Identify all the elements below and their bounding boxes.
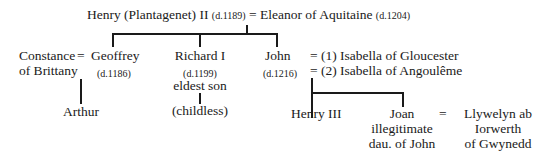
john-death: (d.1216): [263, 66, 297, 81]
llywelyn-realm: of Gwynedd: [455, 136, 541, 151]
richard-drop-line: [199, 33, 201, 47]
john-drop-line: [276, 33, 278, 47]
constance-marriage-sign: =: [77, 48, 85, 63]
joan-drop-line: [402, 92, 404, 107]
joan-status: illegitimate: [362, 121, 442, 136]
joan-parentage: dau. of John: [362, 136, 442, 151]
arthur-name: Arthur: [63, 104, 99, 119]
joan-name: Joan: [362, 106, 442, 121]
llywelyn-name: Llywelyn ab: [455, 106, 541, 121]
geoffrey-drop-line: [112, 33, 114, 47]
geoffrey-name: Geoffrey: [91, 48, 139, 63]
children-bar-line: [112, 33, 278, 35]
henry-ii-name: Henry (Plantagenet) II: [87, 7, 208, 22]
henry-iii-name: Henry III: [291, 106, 342, 121]
john-children-bar-line: [311, 92, 404, 94]
llywelyn-patronym: Iorwerth: [455, 121, 541, 136]
henry-ii-death: (d.1189): [212, 10, 246, 21]
eleanor-name: Eleanor of Aquitaine: [260, 7, 372, 22]
richard-name: Richard I: [160, 48, 240, 63]
arthur-line: [80, 79, 82, 104]
john-wife-2: = (2) Isabella of Angoulême: [310, 63, 462, 78]
geoffrey-death: (d.1186): [97, 66, 131, 81]
root-couple: Henry (Plantagenet) II (d.1189) = Eleano…: [87, 7, 410, 23]
richard-child: (childless): [160, 103, 240, 118]
john-name: John: [265, 48, 291, 63]
joan-marriage-sign: =: [439, 106, 447, 121]
marriage-sign: =: [249, 7, 257, 22]
constance-name: Constance: [19, 48, 75, 63]
richard-note: eldest son: [160, 78, 240, 93]
eleanor-death: (d.1204): [376, 10, 410, 21]
john-wife-1: = (1) Isabella of Gloucester: [310, 48, 459, 63]
constance-origin: of Brittany: [19, 63, 78, 78]
